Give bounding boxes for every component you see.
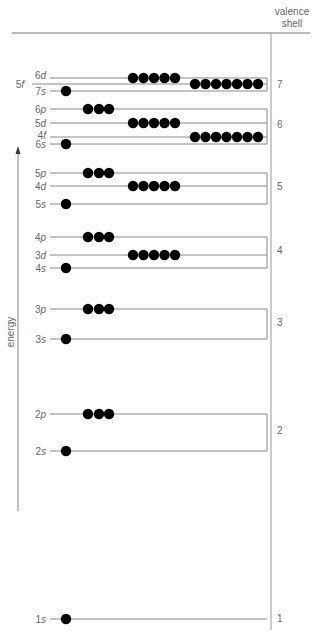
electron-2p-1: [83, 409, 93, 419]
level-label-1s: 1s: [35, 614, 46, 625]
electron-4f-4: [221, 132, 231, 142]
electron-3d-5: [170, 250, 180, 260]
level-5p: 5p: [35, 168, 267, 179]
electron-6p-2: [94, 104, 104, 114]
electron-5d-3: [149, 118, 159, 128]
energy-level-diagram: energy 6d5f7s6p5d4f6s5p4d5s4p3d4s3p3s2p2…: [0, 0, 316, 637]
electron-4d-3: [149, 181, 159, 191]
electron-3d-4: [159, 250, 169, 260]
electron-4d-1: [128, 181, 138, 191]
electron-5f-6: [242, 79, 252, 89]
electron-6p-3: [104, 104, 114, 114]
electron-2p-3: [104, 409, 114, 419]
energy-arrow-head: [16, 146, 21, 154]
level-label-6s: 6s: [35, 139, 46, 150]
electron-4f-2: [200, 132, 210, 142]
electron-5f-5: [232, 79, 242, 89]
level-6p: 6p: [35, 104, 267, 115]
electron-4d-2: [138, 181, 148, 191]
electron-2s-1: [61, 446, 71, 456]
electron-6d-1: [128, 73, 138, 83]
electron-6d-4: [159, 73, 169, 83]
electron-5p-1: [83, 168, 93, 178]
electron-5d-4: [159, 118, 169, 128]
electron-2p-2: [94, 409, 104, 419]
electron-5f-2: [200, 79, 210, 89]
electron-5p-2: [94, 168, 104, 178]
level-label-7s: 7s: [35, 86, 46, 97]
level-label-6d: 6d: [35, 70, 47, 81]
electron-5f-4: [221, 79, 231, 89]
electron-3s-1: [61, 334, 71, 344]
shell-labels: 7654321: [277, 79, 283, 624]
level-label-3s: 3s: [35, 334, 46, 345]
electron-3p-3: [104, 304, 114, 314]
shell-number-3: 3: [277, 317, 283, 328]
level-label-3p: 3p: [35, 304, 47, 315]
electron-5f-1: [190, 79, 200, 89]
electron-6p-1: [83, 104, 93, 114]
electron-3d-1: [128, 250, 138, 260]
level-label-5s: 5s: [35, 199, 46, 210]
electron-6d-2: [138, 73, 148, 83]
electron-5d-1: [128, 118, 138, 128]
electron-7s-1: [61, 86, 71, 96]
electron-5f-3: [211, 79, 221, 89]
electron-3p-1: [83, 304, 93, 314]
level-label-4d: 4d: [35, 181, 47, 192]
level-4p: 4p: [35, 232, 267, 243]
electron-4f-7: [253, 132, 263, 142]
level-label-2p: 2p: [35, 409, 47, 420]
electron-4d-5: [170, 181, 180, 191]
level-label-6p: 6p: [35, 104, 47, 115]
shell-number-5: 5: [277, 181, 283, 192]
shell-number-7: 7: [277, 79, 283, 90]
electron-4f-1: [190, 132, 200, 142]
level-label-2s: 2s: [35, 446, 46, 457]
electron-4p-3: [104, 232, 114, 242]
level-label-5f: 5f: [16, 79, 26, 90]
electron-4d-4: [159, 181, 169, 191]
electron-5p-3: [104, 168, 114, 178]
shell-number-2: 2: [277, 425, 283, 436]
electron-1s-1: [61, 614, 71, 624]
level-label-4s: 4s: [35, 263, 46, 274]
level-label-3d: 3d: [35, 250, 47, 261]
electron-6s-1: [61, 139, 71, 149]
electron-3d-3: [149, 250, 159, 260]
electron-5s-1: [61, 199, 71, 209]
energy-label: energy: [5, 317, 16, 348]
level-label-5p: 5p: [35, 168, 47, 179]
shell-number-4: 4: [277, 245, 283, 256]
level-2p: 2p: [35, 409, 267, 420]
shell-number-1: 1: [277, 613, 283, 624]
level-3p: 3p: [35, 304, 267, 315]
electron-4s-1: [61, 263, 71, 273]
level-label-4p: 4p: [35, 232, 47, 243]
electron-6d-3: [149, 73, 159, 83]
electron-3d-2: [138, 250, 148, 260]
electron-5d-2: [138, 118, 148, 128]
electron-4p-1: [83, 232, 93, 242]
shell-number-6: 6: [277, 119, 283, 130]
electron-6d-5: [170, 73, 180, 83]
electron-5d-5: [170, 118, 180, 128]
electron-4p-2: [94, 232, 104, 242]
electron-4f-5: [232, 132, 242, 142]
electron-4f-3: [211, 132, 221, 142]
electrons-layer: [61, 73, 263, 624]
level-label-5d: 5d: [35, 118, 47, 129]
electron-4f-6: [242, 132, 252, 142]
electron-3p-2: [94, 304, 104, 314]
electron-5f-7: [253, 79, 263, 89]
levels-layer: 6d5f7s6p5d4f6s5p4d5s4p3d4s3p3s2p2s1s: [16, 70, 267, 625]
energy-axis: energy: [5, 146, 21, 511]
